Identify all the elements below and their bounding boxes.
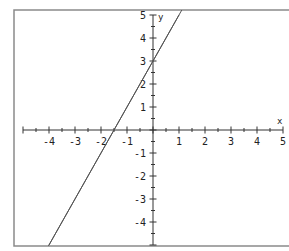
- x-tick-labels: -4-3-2-112345: [43, 136, 286, 147]
- y-tick-label: -4: [134, 217, 146, 228]
- tick-marks: [23, 15, 283, 245]
- x-tick-label: -1: [121, 136, 133, 147]
- series-line-extension: [48, 10, 181, 246]
- y-tick-label: -2: [134, 171, 146, 182]
- x-tick-label: -4: [43, 136, 55, 147]
- y-axis-label: y: [158, 12, 164, 22]
- x-tick-label: 4: [254, 136, 260, 147]
- x-axis-label: x: [277, 116, 283, 126]
- y-tick-label: 1: [140, 102, 146, 113]
- y-tick-label: -3: [134, 194, 146, 205]
- plot-area: -4-3-2-112345 54321-1-2-3-4 x y: [0, 0, 289, 251]
- y-tick-label: 5: [140, 10, 146, 21]
- x-tick-label: 3: [228, 136, 234, 147]
- x-tick-label: 2: [202, 136, 208, 147]
- y-tick-label: 2: [140, 79, 146, 90]
- data-series: [48, 10, 181, 246]
- x-tick-label: -3: [69, 136, 81, 147]
- y-tick-label: -1: [134, 148, 146, 159]
- y-tick-label: 3: [140, 56, 146, 67]
- x-tick-label: 5: [280, 136, 286, 147]
- x-tick-label: 1: [176, 136, 182, 147]
- y-tick-labels: 54321-1-2-3-4: [134, 10, 146, 228]
- y-tick-label: 4: [140, 33, 146, 44]
